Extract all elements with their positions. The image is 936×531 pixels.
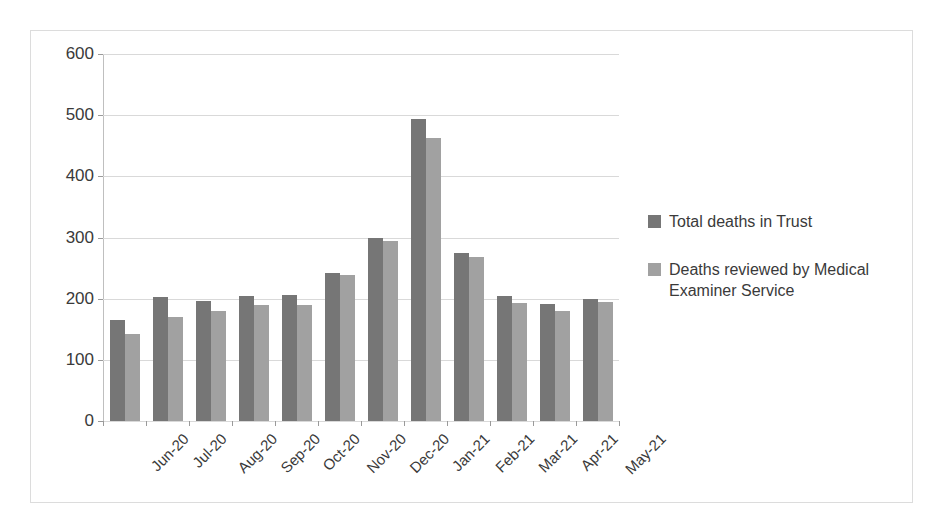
bar[interactable] <box>583 299 598 421</box>
x-axis-tick-label: Jun-20 <box>147 430 191 474</box>
x-axis-tick-label: Apr-21 <box>577 430 621 474</box>
chart-container: 0100200300400500600 Jun-20Jul-20Aug-20Se… <box>30 30 913 503</box>
x-tick-mark <box>576 421 577 426</box>
x-tick-mark <box>232 421 233 426</box>
bar[interactable] <box>125 334 140 421</box>
bar-group[interactable] <box>318 54 361 421</box>
x-axis-tick-label: Dec-20 <box>406 430 452 476</box>
x-tick-mark <box>361 421 362 426</box>
bar[interactable] <box>469 257 484 421</box>
bar[interactable] <box>540 304 555 421</box>
bar[interactable] <box>497 296 512 421</box>
legend-entry[interactable]: Total deaths in Trust <box>648 211 896 232</box>
bar-group[interactable] <box>533 54 576 421</box>
bar[interactable] <box>383 241 398 421</box>
bar-group[interactable] <box>576 54 619 421</box>
legend-swatch-icon <box>648 263 661 276</box>
bar[interactable] <box>426 138 441 421</box>
x-tick-mark <box>189 421 190 426</box>
bar-group[interactable] <box>275 54 318 421</box>
x-tick-mark <box>103 421 104 426</box>
x-axis-tick-label: Jan-21 <box>448 430 492 474</box>
y-axis-tick-label: 500 <box>66 105 94 125</box>
bar[interactable] <box>254 305 269 421</box>
plot-area: 0100200300400500600 Jun-20Jul-20Aug-20Se… <box>103 54 619 421</box>
bar[interactable] <box>211 311 226 421</box>
x-tick-mark <box>490 421 491 426</box>
legend-entry[interactable]: Deaths reviewed by Medical Examiner Serv… <box>648 259 896 301</box>
x-axis-tick-label: Nov-20 <box>363 430 409 476</box>
bar-group[interactable] <box>404 54 447 421</box>
bar[interactable] <box>168 317 183 421</box>
bar[interactable] <box>153 297 168 421</box>
x-tick-mark <box>533 421 534 426</box>
bar-group[interactable] <box>447 54 490 421</box>
y-axis-tick-label: 200 <box>66 289 94 309</box>
bar[interactable] <box>411 119 426 421</box>
bar-group[interactable] <box>361 54 404 421</box>
bar[interactable] <box>239 296 254 421</box>
legend-label: Deaths reviewed by Medical Examiner Serv… <box>669 259 896 301</box>
y-axis-tick-label: 600 <box>66 44 94 64</box>
x-tick-mark <box>146 421 147 426</box>
x-axis-tick-label: Mar-21 <box>535 430 581 476</box>
bar-group[interactable] <box>232 54 275 421</box>
x-axis-tick-label: May-21 <box>622 430 669 477</box>
bar[interactable] <box>282 295 297 421</box>
bar-group[interactable] <box>490 54 533 421</box>
bar-group[interactable] <box>103 54 146 421</box>
x-tick-mark <box>275 421 276 426</box>
bar-group[interactable] <box>146 54 189 421</box>
x-tick-mark <box>404 421 405 426</box>
y-axis-tick-label: 400 <box>66 166 94 186</box>
bar[interactable] <box>598 302 613 421</box>
y-axis-tick-label: 300 <box>66 228 94 248</box>
bar[interactable] <box>325 273 340 421</box>
x-axis-tick-label: Oct-20 <box>319 430 363 474</box>
y-axis-tick-label: 0 <box>85 411 94 431</box>
x-axis-tick-label: Aug-20 <box>234 430 280 476</box>
bar[interactable] <box>368 238 383 422</box>
bar[interactable] <box>555 311 570 421</box>
legend-swatch-icon <box>648 215 661 228</box>
bar-group[interactable] <box>189 54 232 421</box>
bar[interactable] <box>196 301 211 421</box>
x-tick-mark <box>318 421 319 426</box>
x-tick-mark <box>619 421 620 426</box>
bar[interactable] <box>340 275 355 421</box>
x-axis-tick-label: Feb-21 <box>492 430 538 476</box>
x-axis-tick-label: Jul-20 <box>189 430 230 471</box>
y-axis-tick-label: 100 <box>66 350 94 370</box>
bar[interactable] <box>454 253 469 421</box>
x-tick-mark <box>447 421 448 426</box>
bar[interactable] <box>512 303 527 421</box>
legend-label: Total deaths in Trust <box>669 211 812 232</box>
chart-legend: Total deaths in TrustDeaths reviewed by … <box>648 211 896 328</box>
bar[interactable] <box>110 320 125 421</box>
x-axis-tick-label: Sep-20 <box>277 430 323 476</box>
bar[interactable] <box>297 305 312 421</box>
